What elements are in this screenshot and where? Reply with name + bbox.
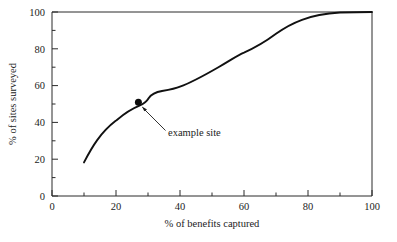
chart-figure: 0 20 40 60 80 100 0 20 40 60 80 100 % of… [0,0,397,242]
y-axis-title: % of sites surveyed [7,62,18,145]
x-tick-label: 20 [111,201,122,212]
x-tick-label: 80 [303,201,314,212]
annotation-label: example site [168,127,221,138]
example-site-marker [135,99,142,106]
line-chart: 0 20 40 60 80 100 0 20 40 60 80 100 % of… [0,0,397,242]
x-tick-label: 60 [239,201,250,212]
y-tick-label: 60 [35,80,46,91]
y-tick-label: 20 [35,154,46,165]
x-axis-title: % of benefits captured [165,218,261,229]
x-tick-label: 40 [175,201,186,212]
x-tick-label: 100 [364,201,380,212]
y-tick-label: 100 [29,7,45,18]
chart-background [0,0,397,242]
x-tick-label: 0 [49,201,54,212]
y-tick-label: 40 [35,117,46,128]
y-tick-label: 0 [40,191,45,202]
y-tick-label: 80 [35,44,46,55]
